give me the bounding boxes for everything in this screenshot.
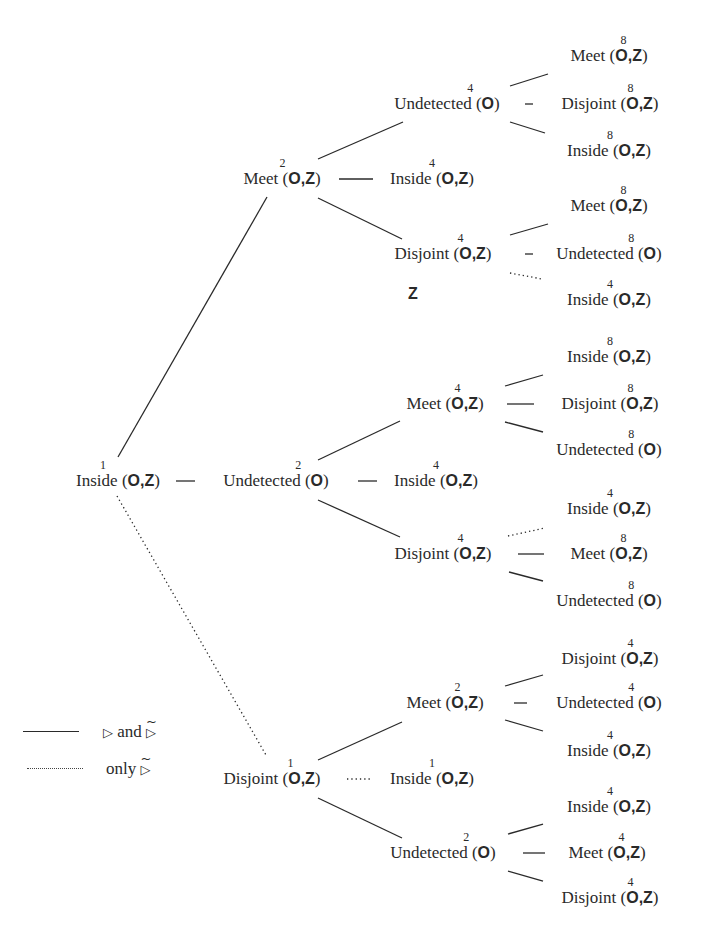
node-disjoint: 4 Disjoint (O,Z) <box>394 545 491 563</box>
edge-solid <box>318 500 400 537</box>
multiplicity-label: 1 <box>100 459 106 471</box>
node-inside: 4 Inside (O,Z) <box>567 798 651 816</box>
relation-args: (O) <box>638 591 662 610</box>
node-undetected: 2 Undetected (O) <box>390 844 495 862</box>
relation-args: (O,Z) <box>436 769 474 788</box>
edge-dotted <box>508 528 545 536</box>
relation-args: (O,Z) <box>446 693 484 712</box>
node-meet: 8 Meet (O,Z) <box>570 197 647 215</box>
edge-solid <box>508 871 543 881</box>
relation-name: Meet <box>406 394 441 413</box>
relation-args: (O,Z) <box>454 544 492 563</box>
relation-args: (O,Z) <box>621 394 659 413</box>
node-inside: 8 Inside (O,Z) <box>567 348 651 366</box>
relation-name: Undetected <box>556 244 633 263</box>
multiplicity-label: 4 <box>433 459 439 471</box>
edge-solid <box>510 224 548 235</box>
relation-args: (O,Z) <box>446 394 484 413</box>
node-meet: 8 Meet (O,Z) <box>570 47 647 65</box>
relation-args: (O,Z) <box>610 46 648 65</box>
relation-name: Meet <box>568 843 603 862</box>
node-root-inside: 1 Inside (O,Z) <box>76 472 160 490</box>
node-inside: 4 Inside (O,Z) <box>567 742 651 760</box>
multiplicity-label: 4 <box>429 157 435 169</box>
edge-solid <box>510 74 548 86</box>
multiplicity-label: 8 <box>627 82 633 94</box>
multiplicity-label: 2 <box>279 157 285 169</box>
edge-solid <box>505 675 543 686</box>
multiplicity-label: 1 <box>429 757 435 769</box>
relation-args: (O,Z) <box>613 290 651 309</box>
multiplicity-label: 4 <box>618 831 624 843</box>
relation-name: Meet <box>570 196 605 215</box>
multiplicity-label: 8 <box>628 428 634 440</box>
relation-name: Disjoint <box>223 769 278 788</box>
edge-solid <box>318 122 403 159</box>
triangle-right-tilde-icon: ~▷ <box>140 762 150 777</box>
legend-text: and <box>117 722 142 741</box>
multiplicity-label: 2 <box>463 831 469 843</box>
node-meet: 2 Meet (O,Z) <box>406 694 483 712</box>
relation-name: Undetected <box>556 591 633 610</box>
relation-args: (O) <box>476 94 500 113</box>
edge-solid <box>318 421 400 460</box>
relation-name: Undetected <box>223 471 300 490</box>
relation-name: Inside <box>567 797 609 816</box>
node-undetected: 8 Undetected (O) <box>556 441 661 459</box>
multiplicity-label: 4 <box>457 232 463 244</box>
multiplicity-label: 8 <box>620 184 626 196</box>
legend-text: only <box>106 759 136 778</box>
edge-dotted <box>117 496 266 755</box>
edge-solid <box>318 198 402 239</box>
node-undetected: 8 Undetected (O) <box>556 592 661 610</box>
node-meet: 4 Meet (O,Z) <box>406 395 483 413</box>
relation-args: (O,Z) <box>454 244 492 263</box>
legend-dotted-line <box>27 768 83 769</box>
edge-solid <box>508 824 543 834</box>
node-disjoint: 4 Disjoint (O,Z) <box>561 650 658 668</box>
relation-name: Inside <box>390 169 432 188</box>
relation-name: Inside <box>567 290 609 309</box>
relation-name: Meet <box>406 693 441 712</box>
multiplicity-label: 4 <box>607 785 613 797</box>
edge-solid <box>318 722 402 760</box>
multiplicity-label: 8 <box>607 129 613 141</box>
tree-diagram: 1 Inside (O,Z) 2 Meet (O,Z) 2 Undetected… <box>0 0 704 935</box>
legend-solid-label: ▷ and ~▷ <box>103 722 156 742</box>
relation-args: (O,Z) <box>613 347 651 366</box>
relation-name: Disjoint <box>561 649 616 668</box>
relation-args: (O,Z) <box>613 141 651 160</box>
relation-args: (O,Z) <box>621 888 659 907</box>
relation-name: Undetected <box>390 843 467 862</box>
relation-args: (O,Z) <box>621 94 659 113</box>
node-undetected: 2 Undetected (O) <box>223 472 328 490</box>
multiplicity-label: 8 <box>620 532 626 544</box>
relation-args: (O,Z) <box>613 741 651 760</box>
relation-name: Inside <box>567 741 609 760</box>
relation-args: (O) <box>305 471 329 490</box>
relation-name: Meet <box>570 46 605 65</box>
node-undetected: 4 Undetected (O) <box>394 95 499 113</box>
edge-solid <box>505 422 543 432</box>
multiplicity-label: 2 <box>295 459 301 471</box>
node-inside: 4 Inside (O,Z) <box>390 170 474 188</box>
multiplicity-label: 8 <box>628 232 634 244</box>
triangle-right-tilde-icon: ~▷ <box>146 725 156 740</box>
relation-args: (O,Z) <box>283 769 321 788</box>
relation-name: Undetected <box>394 94 471 113</box>
relation-name: Undetected <box>556 693 633 712</box>
multiplicity-label: 8 <box>620 34 626 46</box>
multiplicity-label: 8 <box>607 335 613 347</box>
relation-name: Undetected <box>556 440 633 459</box>
node-inside: 8 Inside (O,Z) <box>567 142 651 160</box>
legend-dotted-label: only ~▷ <box>106 759 150 779</box>
relation-name: Inside <box>76 471 118 490</box>
relation-args: (O,Z) <box>613 499 651 518</box>
relation-args: (O) <box>472 843 496 862</box>
triangle-right-icon: ▷ <box>103 725 113 740</box>
node-disjoint: 4 Disjoint (O,Z) <box>561 889 658 907</box>
node-disjoint: 4 Disjoint (O,Z) <box>394 245 491 263</box>
node-meet: 4 Meet (O,Z) <box>568 844 645 862</box>
multiplicity-label: 4 <box>627 876 633 888</box>
relation-args: (O,Z) <box>613 797 651 816</box>
